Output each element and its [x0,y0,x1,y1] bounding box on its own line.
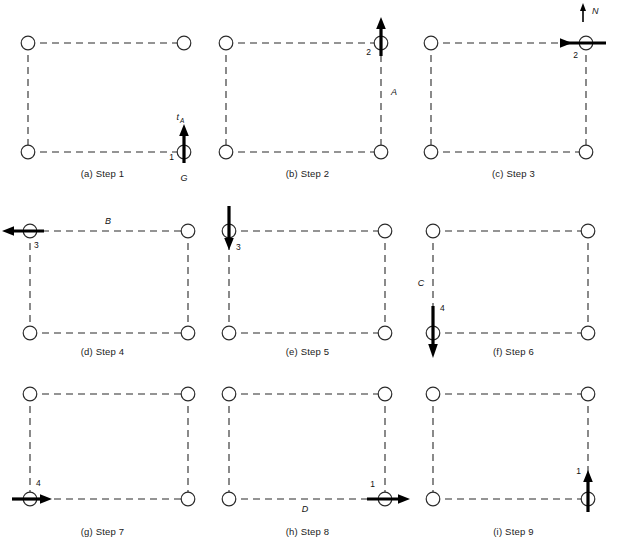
arrow-number-label: 2 [366,47,371,57]
north-arrow-icon [580,3,586,22]
force-label-top-subscript: A [179,117,184,124]
node-top-left [222,387,236,401]
panel-a-diagram: 1 t A G [0,0,205,188]
panel-step-7: 4 (g) Step 7 [0,368,205,548]
panel-step-4: 3 B (d) Step 4 [0,188,205,368]
node-top-right [378,224,392,238]
panel-c-diagram: 2 N [410,0,617,188]
arrow-number-label: 4 [440,303,445,313]
node-top-right [181,387,195,401]
panel-caption: (c) Step 3 [410,168,617,179]
bottom-cut-off-text [0,540,617,548]
panel-caption: (f) Step 6 [410,346,617,357]
panel-step-6: 4 C (f) Step 6 [410,188,617,368]
force-arrow-up [583,470,593,512]
arrow-number-label: 2 [573,50,578,60]
panel-e-diagram: 3 [205,188,410,368]
panel-step-1: 1 t A G (a) Step 1 [0,0,205,188]
panel-b-diagram: 2 A [205,0,410,188]
node-bottom-left [426,492,440,506]
node-top-left [424,36,438,50]
node-bottom-left [23,326,37,340]
panel-step-3: 2 N (c) Step 3 [410,0,617,188]
arrow-number-label: 3 [236,242,241,252]
edge-label: D [302,504,309,514]
node-top-left [21,36,35,50]
edge-label: C [418,278,425,288]
panel-step-2: 2 A (b) Step 2 [205,0,410,188]
node-top-left [219,36,233,50]
node-bottom-left [222,326,236,340]
panel-caption: (g) Step 7 [0,526,205,537]
panel-grid: 1 t A G (a) Step 1 [0,0,617,548]
node-top-right [181,224,195,238]
node-bottom-right [378,326,392,340]
node-top-left [426,224,440,238]
node-top-right [378,387,392,401]
panel-step-8: 1 D (h) Step 8 [205,368,410,548]
panel-f-diagram: 4 C [410,188,617,368]
panel-caption: (e) Step 5 [205,346,410,357]
node-bottom-right [581,326,595,340]
panel-step-5: 3 (e) Step 5 [205,188,410,368]
node-top-right [581,387,595,401]
arrow-number-label: 1 [169,152,174,162]
node-bottom-left [424,145,438,159]
edge-label: B [105,216,111,226]
node-bottom-right [181,326,195,340]
node-bottom-right [579,145,593,159]
node-bottom-right [181,492,195,506]
north-label: N [592,6,599,16]
panel-h-diagram: 1 D [205,368,410,548]
panel-caption: (b) Step 2 [205,168,410,179]
arrow-number-label: 4 [36,478,41,488]
panel-caption: (h) Step 8 [205,526,410,537]
node-bottom-left [222,492,236,506]
node-top-left [23,387,37,401]
node-bottom-left [219,145,233,159]
node-top-right [581,224,595,238]
node-bottom-right [374,145,388,159]
node-top-right [177,36,191,50]
arrow-number-label: 1 [576,466,581,476]
edge-label: A [390,87,397,97]
panel-caption: (i) Step 9 [410,526,617,537]
arrow-number-label: 3 [34,240,39,250]
panel-g-diagram: 4 [0,368,205,548]
node-bottom-left [21,145,35,159]
panel-i-diagram: 1 [410,368,617,548]
arrow-number-label: 1 [370,479,375,489]
node-top-left [426,387,440,401]
panel-step-9: 1 (i) Step 9 [410,368,617,548]
panel-caption: (d) Step 4 [0,346,205,357]
panel-caption: (a) Step 1 [0,168,205,179]
force-arrow-left [2,226,44,236]
panel-d-diagram: 3 B [0,188,205,368]
figure-root: 1 t A G (a) Step 1 [0,0,617,548]
